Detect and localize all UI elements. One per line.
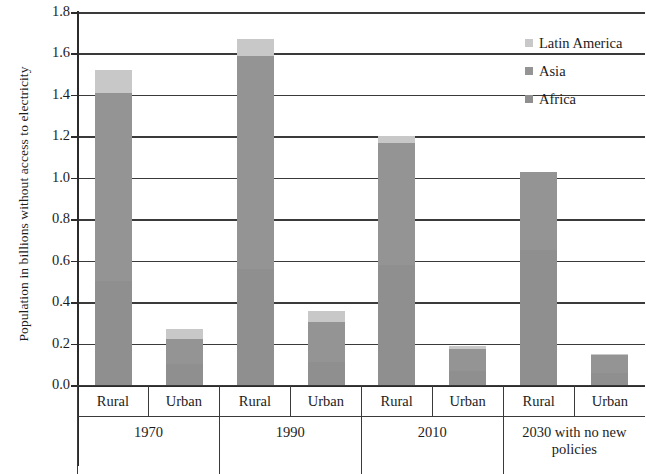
chart-legend: Latin America Asia Africa	[525, 29, 646, 113]
bar-segment-africa	[95, 281, 132, 385]
gridline	[78, 12, 645, 14]
x-axis-subcategory-cell: Urban	[574, 386, 645, 417]
bar-segment-africa	[520, 250, 557, 385]
legend-swatch-latin-america	[525, 39, 533, 47]
gridline	[78, 178, 645, 180]
bar	[166, 329, 203, 385]
bar-segment-asia	[237, 56, 274, 269]
y-axis-tick-label: 1.0	[26, 169, 70, 186]
x-axis-label-table: Rural Urban Rural Urban Rural Urban Rura…	[77, 385, 645, 474]
y-axis-tick-label: 0.8	[26, 210, 70, 227]
y-axis-tick-label: 1.2	[26, 127, 70, 144]
gridline	[78, 302, 645, 304]
y-axis-tick-label: 1.6	[26, 44, 70, 61]
x-axis-subcategory-cell: Rural	[361, 386, 432, 417]
y-axis-tick-label: 0.0	[26, 376, 70, 393]
legend-swatch-africa	[525, 95, 533, 103]
legend-item-africa: Africa	[525, 85, 646, 113]
x-axis-subcategory-cell: Rural	[78, 386, 149, 417]
bar-segment-asia	[449, 349, 486, 371]
legend-label-africa: Africa	[539, 91, 576, 108]
legend-item-latin-america: Latin America	[525, 29, 646, 57]
x-axis-period-cell: 1970	[78, 417, 220, 474]
y-axis-tick	[71, 302, 79, 304]
bar-segment-asia	[166, 339, 203, 364]
x-axis-subcategory-cell: Urban	[148, 386, 219, 417]
legend-label-latin-america: Latin America	[539, 35, 622, 52]
y-axis-tick	[71, 95, 79, 97]
legend-item-asia: Asia	[525, 57, 646, 85]
y-axis-tick-label: 0.6	[26, 252, 70, 269]
y-axis-tick-label: 0.2	[26, 335, 70, 352]
gridline	[78, 136, 645, 138]
bar-segment-asia	[378, 143, 415, 265]
legend-swatch-asia	[525, 67, 533, 75]
legend-label-asia: Asia	[539, 63, 566, 80]
y-axis-tick-label: 1.8	[26, 3, 70, 20]
bar	[449, 346, 486, 385]
bar-segment-africa	[449, 371, 486, 386]
bar-segment-latin-america	[237, 39, 274, 56]
y-axis-tick-label: 0.4	[26, 293, 70, 310]
bar-segment-asia	[520, 172, 557, 251]
x-axis-subcategory-cell: Rural	[219, 386, 290, 417]
bar	[378, 136, 415, 385]
bar	[308, 311, 345, 385]
bar-segment-africa	[378, 265, 415, 385]
bar-segment-asia	[308, 322, 345, 362]
bar-segment-africa	[237, 269, 274, 385]
bar	[520, 172, 557, 385]
x-axis-subcategory-cell: Rural	[503, 386, 574, 417]
bar-segment-africa	[591, 373, 628, 385]
y-axis-tick	[71, 136, 79, 138]
y-axis-tick	[71, 344, 79, 346]
x-axis-period-row: 1970 1990 2010 2030 with no new policies	[78, 417, 646, 474]
bar	[237, 39, 274, 385]
x-axis-subcategory-cell: Urban	[290, 386, 361, 417]
y-axis-tick	[71, 219, 79, 221]
y-axis-tick	[71, 261, 79, 263]
x-axis-subcategory-row: Rural Urban Rural Urban Rural Urban Rura…	[78, 386, 646, 417]
bar-segment-latin-america	[308, 311, 345, 321]
gridline	[78, 261, 645, 263]
y-axis-tick	[71, 12, 79, 14]
bar-segment-asia	[95, 93, 132, 282]
bar-segment-africa	[166, 364, 203, 385]
bar	[591, 354, 628, 385]
y-axis-tick	[71, 178, 79, 180]
y-axis-tick	[71, 53, 79, 55]
x-axis-subcategory-cell: Urban	[432, 386, 503, 417]
bar-segment-latin-america	[166, 329, 203, 339]
bar-segment-africa	[308, 362, 345, 385]
gridline	[78, 219, 645, 221]
bar-segment-latin-america	[95, 70, 132, 93]
x-axis-period-cell: 2010	[361, 417, 503, 474]
bar-segment-asia	[591, 355, 628, 373]
gridline	[78, 344, 645, 346]
bar	[95, 70, 132, 385]
y-axis-tick-label: 1.4	[26, 86, 70, 103]
x-axis-period-cell: 2030 with no new policies	[503, 417, 645, 474]
x-axis-period-cell: 1990	[219, 417, 361, 474]
